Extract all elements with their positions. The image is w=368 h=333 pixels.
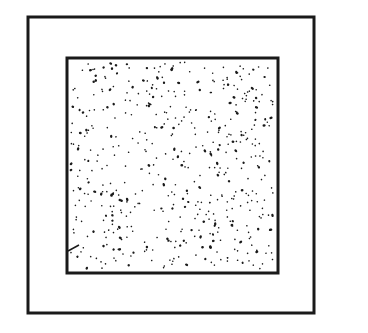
tick-mark xyxy=(68,245,79,251)
diagram-canvas xyxy=(0,0,368,333)
stipple-texture xyxy=(69,62,274,271)
inner-square xyxy=(67,58,278,273)
